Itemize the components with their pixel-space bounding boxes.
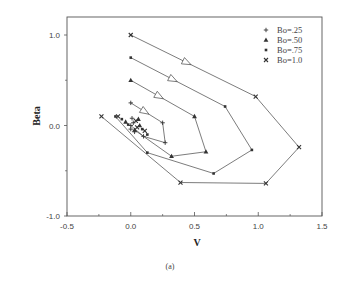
series-bo10 xyxy=(99,33,301,185)
x-tick-label: 0.5 xyxy=(189,222,201,231)
direction-arrow-icon xyxy=(168,74,178,81)
y-axis-ticks: -1.00.01.0 xyxy=(46,31,67,221)
y-tick-label: -1.0 xyxy=(46,212,60,221)
x-tick-label: 1.5 xyxy=(316,222,328,231)
x-axis-label: V xyxy=(193,237,201,248)
series-bo75 xyxy=(114,56,253,174)
y-axis-label: Beta xyxy=(31,106,42,125)
direction-arrow-icon xyxy=(154,91,164,98)
legend-item: Bo=1.0 xyxy=(264,55,302,65)
legend-label: Bo=1.0 xyxy=(277,55,302,65)
legend-label: Bo=.50 xyxy=(277,35,302,45)
x-tick-label: 0.0 xyxy=(125,222,137,231)
legend-item: Bo=.75 xyxy=(265,45,303,55)
legend-label: Bo=.75 xyxy=(277,45,302,55)
y-tick-label: 1.0 xyxy=(49,31,61,40)
x-tick-label: 1.0 xyxy=(253,222,265,231)
legend-item: Bo=.50 xyxy=(264,35,303,45)
data-series xyxy=(99,33,301,185)
x-tick-label: -0.5 xyxy=(60,222,74,231)
direction-arrow-icon xyxy=(139,106,148,114)
series-bo50 xyxy=(128,78,208,158)
y-tick-label: 0.0 xyxy=(49,122,61,131)
x-axis-ticks: -0.50.00.51.01.5 xyxy=(60,212,328,231)
legend-label: Bo=.25 xyxy=(277,25,302,35)
legend: Bo=.25Bo=.50Bo=.75Bo=1.0 xyxy=(264,25,303,65)
chart-svg: -0.50.00.51.01.5 -1.00.01.0 Bo=.25Bo=.50… xyxy=(0,0,339,283)
figure-caption: (a) xyxy=(166,262,175,271)
direction-arrow-icon xyxy=(181,58,191,65)
legend-item: Bo=.25 xyxy=(264,25,303,35)
